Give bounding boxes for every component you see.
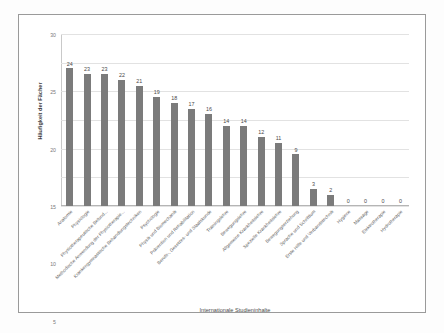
bar-item[interactable]: 9 — [287, 34, 304, 206]
x-tick-cell: Hydrotherapie — [392, 207, 409, 293]
bar[interactable] — [327, 195, 334, 206]
bar-series: 242323222119181716141412119320000 — [61, 34, 409, 206]
bar[interactable] — [171, 103, 178, 206]
bar-item[interactable]: 23 — [96, 34, 113, 206]
bar[interactable] — [153, 97, 160, 206]
bar[interactable] — [275, 143, 282, 206]
bar-value-label: 14 — [223, 119, 229, 124]
y-axis-title: Häufigkeit der Fächer — [37, 82, 43, 139]
bar-value-label: 2 — [329, 188, 332, 193]
bar[interactable] — [118, 80, 125, 206]
bar-value-label: 0 — [399, 199, 402, 204]
y-axis-tick-label: 5 — [53, 319, 56, 325]
bar-value-label: 23 — [84, 67, 90, 72]
bar-value-label: 12 — [258, 130, 264, 135]
bar-item[interactable]: 21 — [131, 34, 148, 206]
bar-value-label: 0 — [364, 199, 367, 204]
bar-item[interactable]: 18 — [165, 34, 182, 206]
bar-item[interactable]: 0 — [392, 34, 409, 206]
bar[interactable] — [292, 154, 299, 206]
bar[interactable] — [188, 109, 195, 206]
bar-value-label: 18 — [171, 96, 177, 101]
bar-item[interactable]: 12 — [252, 34, 269, 206]
bar-item[interactable]: 0 — [374, 34, 391, 206]
bar-item[interactable]: 23 — [78, 34, 95, 206]
bar-value-label: 14 — [241, 119, 247, 124]
bar[interactable] — [223, 126, 230, 206]
y-axis-tick-label: 30 — [50, 32, 56, 38]
bar-item[interactable]: 14 — [235, 34, 252, 206]
y-axis-tick-label: 25 — [50, 89, 56, 95]
bar-value-label: 19 — [154, 90, 160, 95]
bar[interactable] — [66, 68, 73, 206]
bar-item[interactable]: 0 — [340, 34, 357, 206]
bar-item[interactable]: 24 — [61, 34, 78, 206]
bar[interactable] — [240, 126, 247, 206]
y-axis-tick-label: 10 — [50, 261, 56, 267]
bar-value-label: 23 — [102, 67, 108, 72]
x-axis-category-label: Hygiene — [336, 209, 352, 225]
bar-value-label: 9 — [294, 148, 297, 153]
chart-frame: Häufigkeit der Fächer 051015202530 24232… — [18, 14, 426, 313]
chart-page: Häufigkeit der Fächer 051015202530 24232… — [0, 0, 444, 333]
bar-value-label: 16 — [206, 107, 212, 112]
bar-item[interactable]: 11 — [270, 34, 287, 206]
bar[interactable] — [310, 189, 317, 206]
bar-item[interactable]: 16 — [200, 34, 217, 206]
bar-item[interactable]: 22 — [113, 34, 130, 206]
bar-value-label: 22 — [119, 73, 125, 78]
bar[interactable] — [205, 114, 212, 206]
bar-item[interactable]: 17 — [183, 34, 200, 206]
bar-item[interactable]: 19 — [148, 34, 165, 206]
bar-value-label: 24 — [67, 62, 73, 67]
y-axis-tick-label: 15 — [50, 204, 56, 210]
bar-item[interactable]: 0 — [357, 34, 374, 206]
bar-item[interactable]: 2 — [322, 34, 339, 206]
bar-value-label: 17 — [189, 102, 195, 107]
bar[interactable] — [101, 74, 108, 206]
bar-item[interactable]: 3 — [305, 34, 322, 206]
x-axis-tick-labels: AnatomiePhysiologiePhysiotherapeutische … — [61, 207, 409, 293]
y-axis-tick-label: 20 — [50, 147, 56, 153]
plot-area: 051015202530 242323222119181716141412119… — [61, 34, 409, 206]
bar-value-label: 0 — [347, 199, 350, 204]
bar-item[interactable]: 14 — [218, 34, 235, 206]
bar-value-label: 3 — [312, 182, 315, 187]
bar[interactable] — [136, 86, 143, 206]
bar[interactable] — [258, 137, 265, 206]
bar[interactable] — [84, 74, 91, 206]
bar-value-label: 0 — [382, 199, 385, 204]
bar-value-label: 11 — [276, 136, 282, 141]
x-axis-title: Internationale Studieninhalte — [61, 307, 409, 313]
bar-value-label: 21 — [136, 79, 142, 84]
